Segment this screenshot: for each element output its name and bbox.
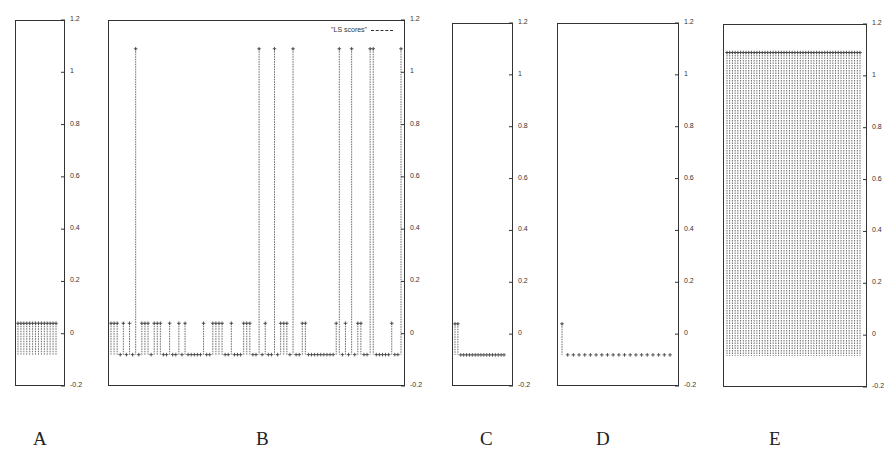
y-tick-label: 1	[872, 71, 876, 78]
panel-label-e: E	[769, 428, 781, 450]
y-tick-label: 1.2	[872, 19, 882, 26]
stem-plot	[0, 0, 893, 460]
y-tick-label: 0.4	[872, 226, 882, 233]
y-tick-label: -0.2	[872, 382, 884, 389]
y-tick-label: 0.6	[872, 175, 882, 182]
y-tick-label: 0.8	[872, 123, 882, 130]
y-tick-label: 0.2	[872, 278, 882, 285]
y-tick-label: 0	[872, 330, 876, 337]
